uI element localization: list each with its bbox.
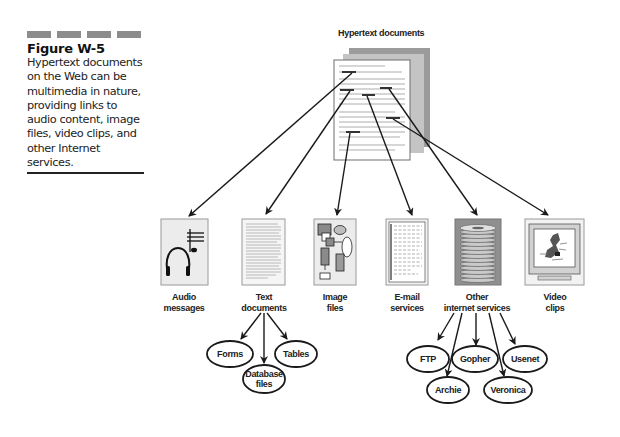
other-internet-services-label: Other internet services [444, 292, 510, 314]
video-clips-icon [525, 219, 584, 285]
email-services-label: E-mail services [390, 292, 424, 314]
database-files-label: Database files [245, 369, 283, 389]
audio-messages-label: Audio messages [163, 292, 204, 314]
image-files-label: Image files [323, 292, 348, 314]
tables-label: Tables [283, 349, 309, 359]
archie-label: Archie [435, 385, 461, 395]
email-services-icon [386, 219, 428, 285]
gopher-label: Gopher [460, 354, 490, 364]
text-documents-label: Text documents [241, 292, 286, 314]
video-clips-label: Video clips [544, 292, 567, 314]
text-documents-icon [242, 219, 285, 285]
forms-label: Forms [217, 349, 243, 359]
diagram-canvas [0, 0, 620, 437]
image-files-icon [314, 219, 356, 285]
ftp-label: FTP [420, 354, 436, 364]
veronica-label: Veronica [490, 385, 525, 395]
usenet-label: Usenet [511, 354, 539, 364]
audio-messages-icon [161, 219, 208, 285]
other-internet-services-icon [455, 219, 501, 285]
